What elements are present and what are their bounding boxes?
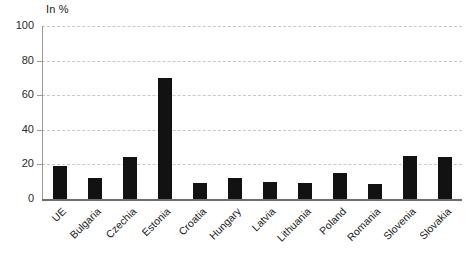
bar-slot (42, 26, 77, 199)
bar[interactable] (123, 157, 137, 199)
bar[interactable] (228, 178, 242, 199)
y-axis-tick-mark (37, 164, 42, 165)
bar-slot (147, 26, 182, 199)
y-axis-tick-mark (37, 95, 42, 96)
y-axis-tick-label: 40 (2, 123, 34, 135)
bar[interactable] (333, 173, 347, 199)
y-axis-tick-label: 20 (2, 157, 34, 169)
bar[interactable] (438, 157, 452, 199)
bar-slot (182, 26, 217, 199)
y-axis-tick-label: 100 (2, 19, 34, 31)
bar[interactable] (158, 78, 172, 199)
y-axis-tick-label: 80 (2, 54, 34, 66)
bar-slot (112, 26, 147, 199)
x-axis-tick-label: UE (49, 205, 68, 224)
x-label-slot: Estonia (147, 201, 182, 263)
bar-slot (77, 26, 112, 199)
y-axis-tick-label: 60 (2, 88, 34, 100)
bar-slot (287, 26, 322, 199)
y-axis-tick-label: 0 (2, 192, 34, 204)
bar[interactable] (403, 156, 417, 199)
bar[interactable] (193, 183, 207, 199)
x-axis-labels: UEBulgariaCzechiaEstoniaCroatiaHungaryLa… (42, 201, 462, 263)
bar-slot (322, 26, 357, 199)
bar[interactable] (298, 183, 312, 199)
bar-chart: In % 020406080100 UEBulgariaCzechiaEston… (0, 0, 468, 263)
bar-slot (392, 26, 427, 199)
x-label-slot: Lithuania (287, 201, 322, 263)
y-axis-tick-mark (37, 130, 42, 131)
x-axis-tick-label: Poland (316, 205, 348, 237)
y-axis-tick-labels: 020406080100 (0, 26, 34, 200)
bar[interactable] (53, 166, 67, 199)
bar[interactable] (263, 182, 277, 199)
bar[interactable] (368, 184, 382, 199)
bar-slot (427, 26, 462, 199)
bar[interactable] (88, 178, 102, 199)
x-label-slot: Slovakia (427, 201, 462, 263)
bar-slot (217, 26, 252, 199)
x-axis-tick-label: Latvia (250, 205, 278, 233)
y-axis-tick-mark (37, 61, 42, 62)
bar-slot (252, 26, 287, 199)
x-label-slot: Hungary (217, 201, 252, 263)
bars-layer (42, 26, 462, 199)
bar-slot (357, 26, 392, 199)
axis-unit-label: In % (46, 3, 69, 15)
